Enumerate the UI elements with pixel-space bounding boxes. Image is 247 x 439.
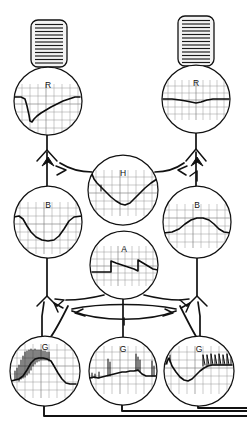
synapse-chevron-loop-right-inner — [163, 309, 173, 316]
neuron-G-mid[interactable]: G — [89, 337, 157, 405]
neuron-R-right[interactable]: R — [162, 65, 230, 133]
neuron-label: R — [193, 78, 199, 88]
neuron-label: B — [45, 200, 51, 210]
receptor-organ-left[interactable] — [31, 20, 67, 67]
neuron-H[interactable]: H — [88, 155, 158, 225]
axon-G-right-to-B-right — [198, 302, 200, 336]
neuron-B-left[interactable]: B — [13, 186, 83, 258]
cell-body — [88, 155, 158, 225]
loop-riser-left — [50, 306, 68, 338]
neuron-B-right[interactable]: B — [162, 186, 232, 258]
neuron-label: B — [194, 200, 200, 210]
output-bus-right — [198, 406, 247, 408]
neuron-label: G — [120, 344, 127, 354]
neuron-G-left[interactable]: G — [10, 336, 80, 406]
collateral-A-to-B-left — [66, 295, 104, 300]
synapse-chevron-loop-left-inner — [75, 309, 85, 316]
synapse-chevron-H-right-branch — [178, 166, 187, 175]
loop-riser-right — [180, 306, 197, 338]
neuron-G-right[interactable]: G — [164, 336, 234, 406]
neuron-label: R — [45, 80, 51, 90]
synapse-chevron-R-right-collateral — [191, 157, 203, 166]
neuron-R-left[interactable]: R — [14, 67, 82, 135]
neuron-label: G — [196, 344, 203, 354]
neural-circuit-diagram: R — [0, 0, 247, 439]
axon-G-left-to-B-left — [42, 302, 44, 336]
collateral-A-to-B-right — [144, 295, 180, 300]
cell-body — [14, 67, 82, 135]
receptor-organ-right[interactable] — [178, 16, 214, 66]
cell-body — [163, 186, 231, 258]
synapse-chevron-H-left-branch — [56, 166, 66, 175]
neuron-label: G — [42, 342, 49, 352]
synapse-chevron-R-left-collateral — [42, 157, 54, 166]
neuron-A[interactable]: A — [90, 231, 158, 299]
figure-canvas: R — [0, 0, 247, 439]
neuron-label: A — [121, 244, 127, 254]
neuron-label: H — [120, 168, 126, 178]
recurrent-loop-upper — [72, 305, 176, 310]
